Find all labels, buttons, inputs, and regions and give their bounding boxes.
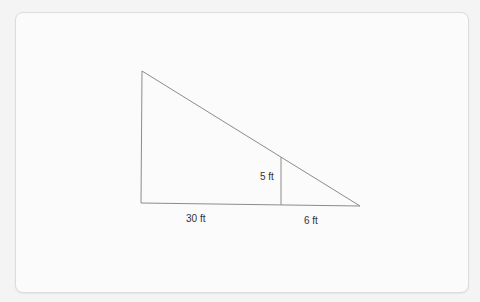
similar-triangles-diagram: 5 ft 30 ft 6 ft: [0, 0, 480, 302]
right-base-label: 6 ft: [304, 215, 318, 226]
hypotenuse: [142, 71, 360, 206]
inner-height-label: 5 ft: [260, 171, 274, 182]
left-base-label: 30 ft: [186, 213, 206, 224]
vertical-side: [141, 71, 142, 203]
outer-triangle: [141, 71, 360, 206]
base-line: [141, 203, 360, 206]
